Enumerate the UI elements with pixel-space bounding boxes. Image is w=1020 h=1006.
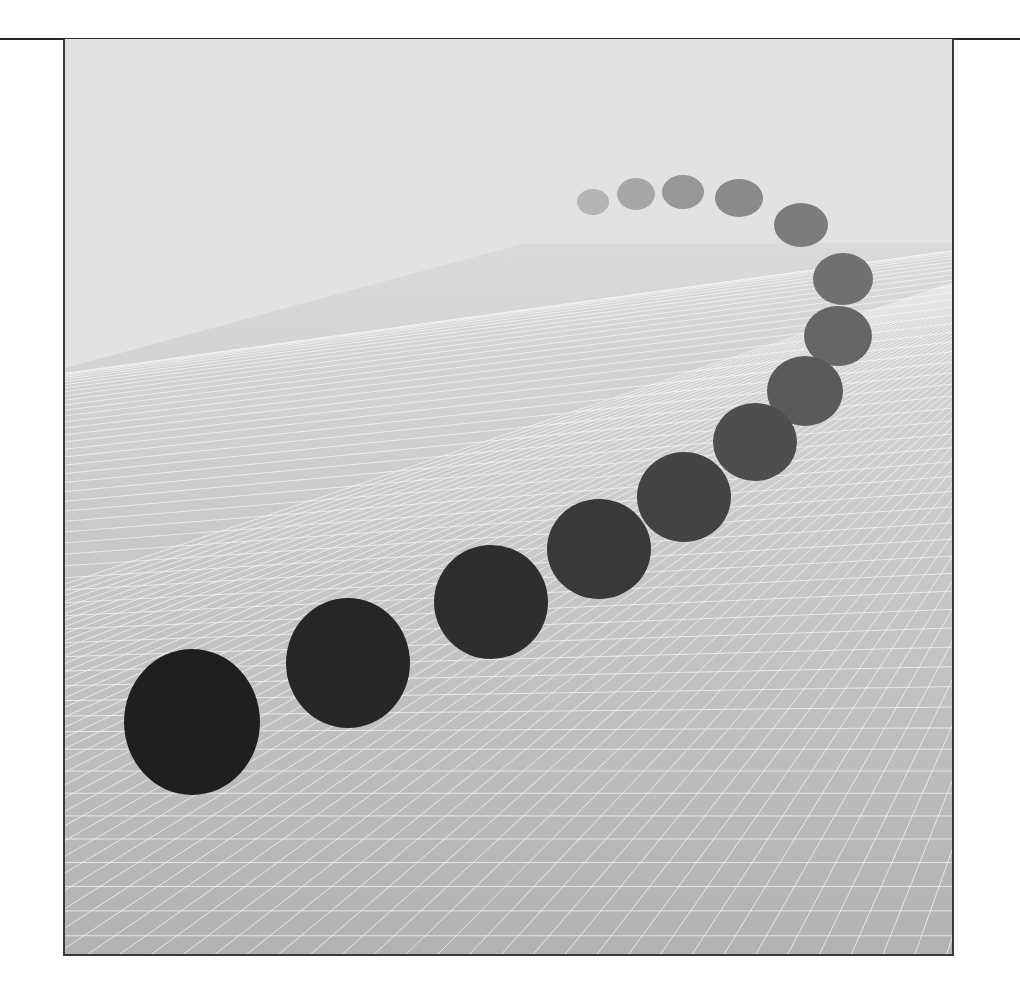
figure-canvas	[0, 0, 1020, 1006]
dot-12	[434, 545, 548, 659]
dot-13	[286, 598, 410, 728]
dot-2	[617, 178, 655, 210]
dot-3	[662, 175, 704, 209]
dot-9	[713, 403, 797, 481]
dot-7	[804, 306, 872, 366]
dot-4	[715, 179, 763, 217]
dot-11	[547, 499, 651, 599]
dot-5	[774, 203, 828, 247]
dot-10	[637, 452, 731, 542]
dot-6	[813, 253, 873, 305]
dot-1	[577, 189, 609, 215]
scene-frame	[63, 39, 954, 956]
dot-14	[124, 649, 260, 795]
perspective-scene	[63, 39, 954, 956]
